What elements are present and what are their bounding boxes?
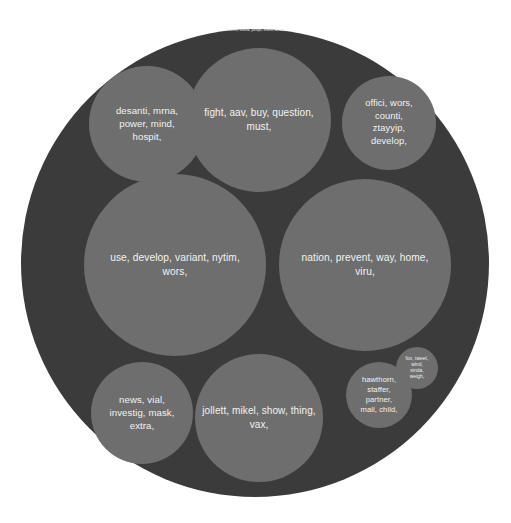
cluster-node[interactable]: fox, tweet,wind,sinda,weigh, [396,347,438,389]
cluster-circle[interactable] [195,354,323,482]
cluster-circle[interactable] [396,347,438,389]
cluster-circle[interactable] [84,174,266,356]
cluster-node[interactable]: news, vial,investig, mask,extra, [91,362,193,464]
cluster-node[interactable]: nation, prevent, way, home,viru, [279,179,451,351]
root-circle-label: deaths, covid, peopl, elect, dead, [225,27,285,32]
cluster-node[interactable]: use, develop, variant, nytim,wors, [84,174,266,356]
cluster-node[interactable]: jollett, mikel, show, thing,vax, [195,354,323,482]
circle-packing-chart: deaths, covid, peopl, elect, dead, desan… [0,0,511,523]
cluster-circle[interactable] [279,179,451,351]
cluster-circle[interactable] [342,76,436,170]
cluster-circle[interactable] [91,362,193,464]
cluster-circle[interactable] [187,48,331,192]
circle-packing-svg: deaths, covid, peopl, elect, dead, desan… [0,0,511,523]
cluster-node[interactable]: offici, wors,counti,ztayyip,develop, [342,76,436,170]
cluster-node[interactable]: fight, aav, buy, question,must, [187,48,331,192]
